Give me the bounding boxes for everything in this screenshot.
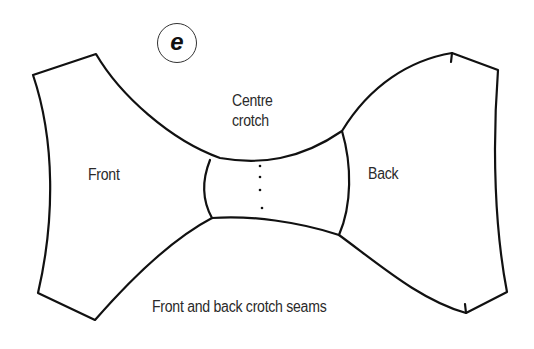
badge-letter: e (170, 30, 183, 54)
front-label: Front (88, 166, 120, 184)
back-label: Back (368, 165, 398, 183)
figure-badge: e (157, 23, 197, 63)
seams-label: Front and back crotch seams (152, 298, 326, 316)
notch-bottom (465, 304, 466, 313)
back-crotch-seam (339, 131, 349, 235)
notch-top (451, 53, 452, 62)
pattern-piece-outline (0, 0, 534, 349)
centre-label-line2: crotch (232, 112, 269, 130)
front-crotch-seam (204, 160, 212, 218)
centre-label-line1: Centre (232, 92, 273, 110)
centre-dotted-line (259, 165, 264, 210)
